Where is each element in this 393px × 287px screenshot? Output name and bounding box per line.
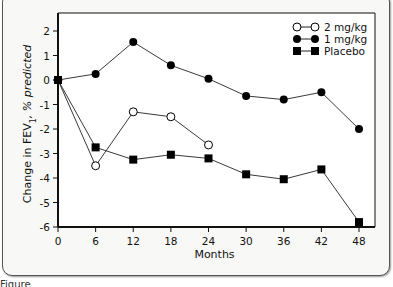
data-point [92,162,100,170]
legend-label: 1 mg/kg [324,33,367,45]
y-tick-label: 2 [43,25,50,37]
y-tick-label: -1 [40,99,50,111]
data-point [317,165,325,173]
data-point [167,151,175,159]
legend-marker [311,23,319,31]
data-point [280,96,288,104]
x-tick-label: 6 [92,235,99,247]
y-axis-title-main: Change in FEV [21,123,34,203]
y-tick-label: -4 [40,172,51,184]
data-point [167,113,175,121]
figure-caption: Figure [0,279,31,287]
y-tick-label: -3 [40,148,50,160]
data-point [167,61,175,69]
y-tick-label: -6 [40,221,51,233]
x-tick-label: 36 [277,235,291,247]
data-point [355,218,363,226]
data-point [280,175,288,183]
legend-marker [293,35,301,43]
data-point [317,88,325,96]
x-tick-label: 18 [164,235,177,247]
x-tick-label: 30 [239,235,252,247]
data-point [92,143,100,151]
legend-marker [311,47,319,55]
data-point [205,141,213,149]
data-point [205,75,213,83]
data-point [355,125,363,133]
data-point [205,154,213,162]
y-tick-label: -5 [40,197,50,209]
legend-marker [293,23,301,31]
y-axis-title: Change in FEV1, % predicted [21,44,38,203]
legend-label: 2 mg/kg [324,21,367,33]
x-tick-label: 24 [202,235,216,247]
y-axis-title-suffix: , % predicted [21,44,34,118]
x-tick-label: 0 [55,235,62,247]
x-tick-label: 48 [352,235,365,247]
data-point [129,38,137,46]
data-point [242,92,250,100]
line-chart: 210-1-2-3-4-5-6 0612182430364248 Months … [0,0,393,287]
y-axis: 210-1-2-3-4-5-6 [40,25,58,233]
data-point [54,76,62,84]
data-point [242,170,250,178]
y-tick-label: -2 [40,123,50,135]
data-point [92,70,100,78]
legend-label: Placebo [324,45,365,57]
x-axis: 0612182430364248 [55,227,366,247]
legend-marker [293,47,301,55]
data-point [129,156,137,164]
y-tick-label: 0 [43,74,50,86]
y-tick-label: 1 [43,50,50,62]
x-axis-title: Months [194,248,234,261]
data-point [129,108,137,116]
legend-marker [311,35,319,43]
x-tick-label: 42 [315,235,328,247]
x-tick-label: 12 [127,235,140,247]
